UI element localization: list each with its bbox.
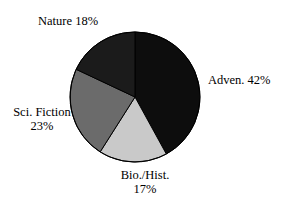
- pie-label-nature: Nature 18%: [38, 14, 98, 28]
- pie-label-bio-hist-name: Bio./Hist.: [103, 168, 187, 182]
- pie-label-sci-fiction-value: 23%: [4, 119, 80, 133]
- pie-label-adven-text: Adven. 42%: [208, 73, 271, 87]
- pie-label-bio-hist: Bio./Hist. 17%: [103, 168, 187, 196]
- pie-label-adven: Adven. 42%: [208, 73, 271, 87]
- pie-label-sci-fiction: Sci. Fiction 23%: [4, 105, 80, 133]
- pie-slice-group: [70, 32, 200, 162]
- pie-label-nature-text: Nature 18%: [38, 14, 98, 28]
- pie-chart: Nature 18% Adven. 42% Sci. Fiction 23% B…: [0, 0, 286, 199]
- pie-label-bio-hist-value: 17%: [103, 182, 187, 196]
- pie-label-sci-fiction-name: Sci. Fiction: [4, 105, 80, 119]
